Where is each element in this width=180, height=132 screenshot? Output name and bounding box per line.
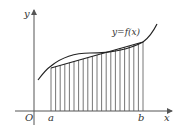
a-label: a <box>48 112 54 123</box>
origin-label: O <box>25 112 33 123</box>
x-axis-label: x <box>164 112 170 123</box>
b-label: b <box>138 112 144 123</box>
y-axis-label: y <box>23 8 30 19</box>
function-label: y=f(x) <box>111 27 141 37</box>
integral-diagram: y x O a b y=f(x) <box>0 0 180 132</box>
